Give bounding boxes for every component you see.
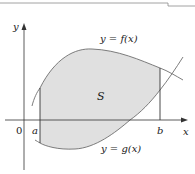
origin-label: 0 <box>16 125 22 136</box>
x-axis-arrow-icon <box>181 118 188 123</box>
upper-curve-label: y = f(x) <box>99 33 138 44</box>
y-axis-label: y <box>12 21 19 32</box>
area-between-curves-diagram: y x 0 a b S y = f(x) y = g(x) <box>0 0 195 174</box>
x-axis-label: x <box>183 126 189 137</box>
region-s-label: S <box>97 90 105 103</box>
lower-curve-label: y = g(x) <box>100 143 141 154</box>
frame-border <box>0 3 195 6</box>
b-label: b <box>157 125 163 136</box>
y-axis-arrow-icon <box>22 23 27 30</box>
a-label: a <box>32 125 38 136</box>
